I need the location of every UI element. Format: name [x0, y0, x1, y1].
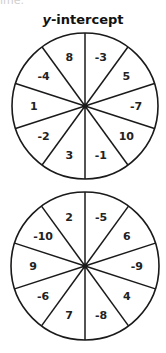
sector-label: -5: [95, 211, 107, 224]
sector-label: -6: [37, 290, 50, 303]
sector-label: -9: [131, 260, 143, 273]
spinner-center-dot: [82, 263, 87, 268]
sector-label: -10: [33, 230, 53, 243]
sector-label: 9: [29, 260, 37, 273]
sector-label: 6: [123, 230, 131, 243]
sector-label: 4: [123, 290, 131, 303]
sector-label: 7: [65, 309, 73, 322]
sector-label: -8: [95, 309, 107, 322]
sector-label: 2: [65, 211, 73, 224]
spinner-bottom: -56-94-87-69-102: [0, 0, 166, 353]
